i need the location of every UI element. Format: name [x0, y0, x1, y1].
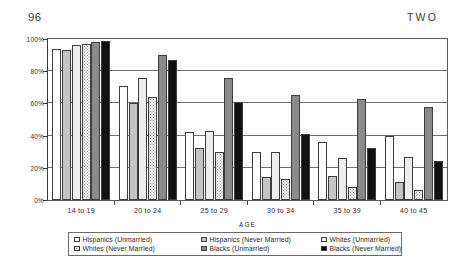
- legend-label: Blacks (Unmarried): [210, 245, 270, 252]
- bar: [348, 187, 357, 200]
- bar-group: [248, 39, 315, 200]
- x-axis-labels: 14 to 1920 to 2425 to 2930 to 3435 to 39…: [48, 207, 447, 214]
- x-axis-label: 40 to 45: [381, 207, 448, 214]
- x-axis-ticks: [48, 201, 447, 206]
- bar: [119, 86, 128, 200]
- bar: [424, 107, 433, 200]
- bar: [395, 182, 404, 200]
- legend-item: Whites (Never Married): [74, 245, 199, 252]
- bar: [262, 177, 271, 200]
- page-number: 96: [28, 11, 42, 23]
- bar: [328, 176, 337, 200]
- y-axis-label: 40%: [14, 132, 44, 139]
- bar: [414, 190, 423, 200]
- bar: [185, 132, 194, 200]
- x-axis-label: 20 to 24: [115, 207, 182, 214]
- legend-swatch-icon: [201, 237, 207, 243]
- bar: [205, 131, 214, 200]
- x-axis-label: 35 to 39: [314, 207, 381, 214]
- bar-group: [115, 39, 182, 200]
- legend-item: Blacks (Unmarried): [201, 245, 319, 252]
- legend-swatch-icon: [321, 237, 327, 243]
- legend-label: Hispanics (Never Married): [210, 236, 291, 243]
- legend-swatch-icon: [321, 246, 327, 252]
- x-axis-tick: [314, 201, 381, 206]
- bar: [234, 102, 243, 200]
- x-axis-label: 14 to 19: [48, 207, 115, 214]
- bar: [91, 42, 100, 200]
- bar: [72, 45, 81, 200]
- legend-swatch-icon: [201, 246, 207, 252]
- y-axis-label: 60%: [14, 100, 44, 107]
- bar: [271, 152, 280, 200]
- bar-groups: [48, 39, 447, 200]
- x-axis-tick: [381, 201, 448, 206]
- bar: [62, 50, 71, 200]
- bar-group: [181, 39, 248, 200]
- bar: [281, 179, 290, 200]
- bar-group: [381, 39, 448, 200]
- legend-label: Blacks (Never Married): [330, 245, 402, 252]
- x-axis-label: 25 to 29: [181, 207, 248, 214]
- x-axis-label: 30 to 34: [248, 207, 315, 214]
- bar: [301, 134, 310, 200]
- bar: [291, 95, 300, 200]
- y-axis-label: 0%: [14, 197, 44, 204]
- page-header: 96 TWO: [0, 6, 466, 28]
- running-head: TWO: [407, 11, 438, 23]
- legend-item: Blacks (Never Married): [321, 245, 401, 252]
- y-axis-label: 80%: [14, 68, 44, 75]
- x-axis-title: AGE: [48, 221, 447, 228]
- x-axis-tick: [115, 201, 182, 206]
- legend-swatch-icon: [74, 237, 80, 243]
- y-axis-label: 100%: [14, 36, 44, 43]
- bar: [158, 55, 167, 200]
- bar: [434, 161, 443, 200]
- bar-group: [314, 39, 381, 200]
- bar: [52, 49, 61, 200]
- x-axis-tick: [248, 201, 315, 206]
- bar: [224, 78, 233, 200]
- bar: [195, 148, 204, 200]
- bar-group: [48, 39, 115, 200]
- bar: [215, 152, 224, 200]
- legend-item: Hispanics (Never Married): [201, 236, 319, 243]
- legend-item: Whites (Unmarried): [321, 236, 401, 243]
- bar: [338, 158, 347, 200]
- bar: [148, 97, 157, 200]
- bar: [138, 78, 147, 200]
- bar: [357, 99, 366, 200]
- y-axis-label: 20%: [14, 164, 44, 171]
- bar: [404, 157, 413, 200]
- legend-swatch-icon: [74, 246, 80, 252]
- bar: [82, 44, 91, 200]
- bar: [385, 136, 394, 200]
- legend-item: Hispanics (Unmarried): [74, 236, 199, 243]
- legend-label: Hispanics (Unmarried): [83, 236, 153, 243]
- bar: [101, 41, 110, 200]
- bar: [367, 148, 376, 200]
- x-axis-tick: [48, 201, 115, 206]
- chart-legend: Hispanics (Unmarried)Hispanics (Never Ma…: [68, 232, 402, 256]
- bar: [252, 152, 261, 200]
- x-axis-tick: [181, 201, 248, 206]
- legend-label: Whites (Never Married): [83, 245, 155, 252]
- bar: [168, 60, 177, 200]
- bar: [129, 103, 138, 200]
- bar-chart-figure: 0%20%40%60%80%100% 14 to 1920 to 2425 to…: [0, 32, 466, 279]
- bar: [318, 142, 327, 200]
- legend-label: Whites (Unmarried): [330, 236, 391, 243]
